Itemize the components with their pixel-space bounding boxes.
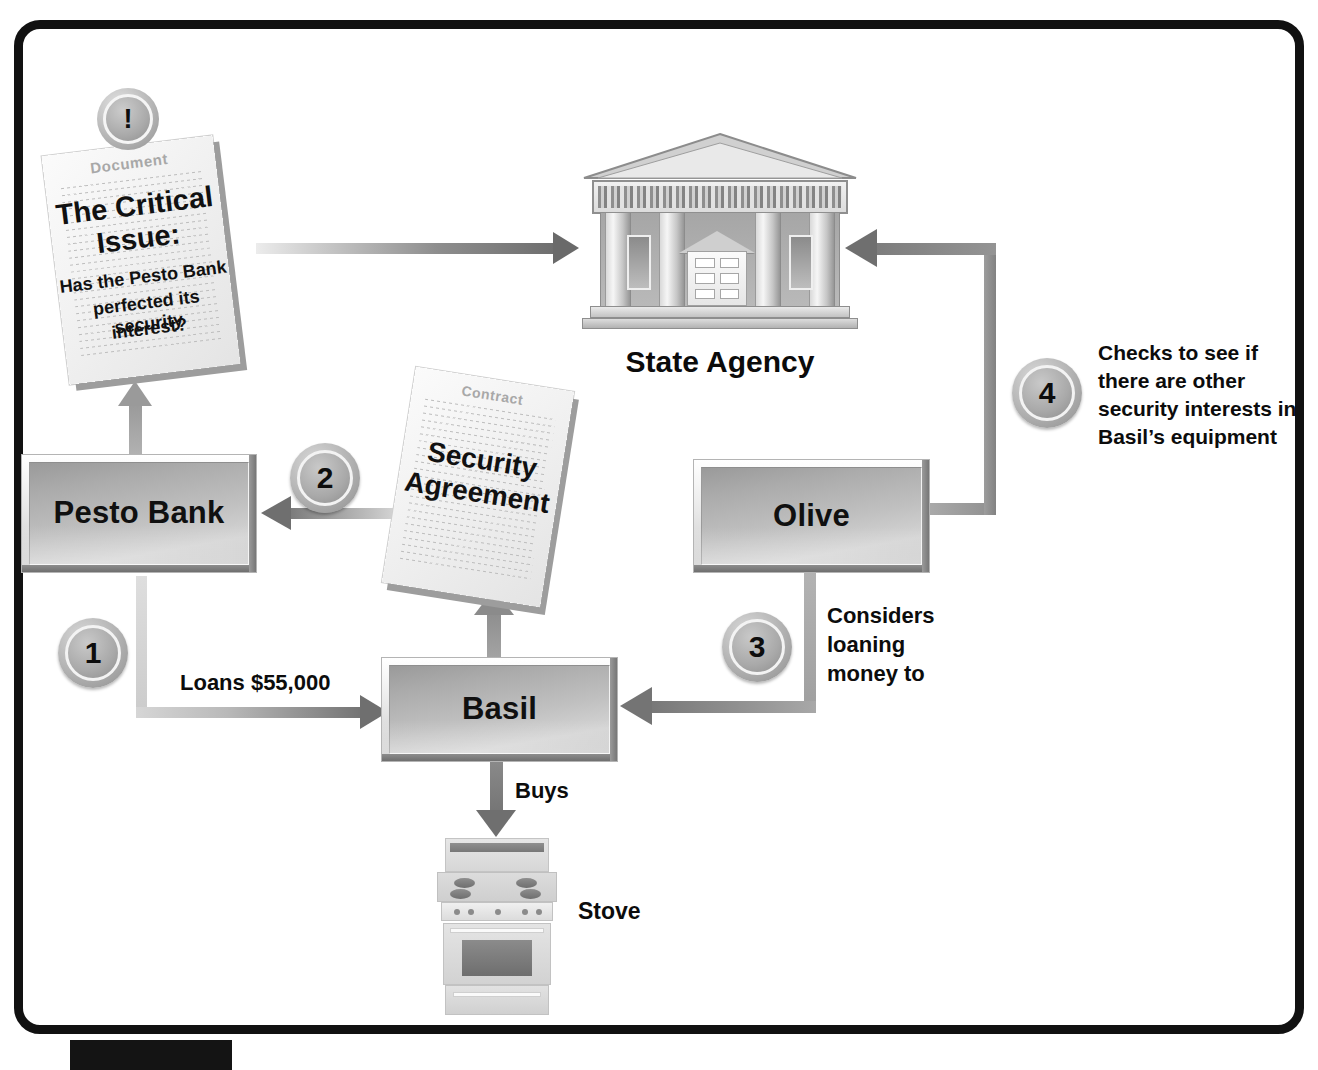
arrow-document-to-agency-shaft: [256, 243, 556, 254]
window-right: [789, 235, 813, 290]
stove-label: Stove: [578, 898, 641, 925]
step4-label-line1: Checks to see if: [1098, 339, 1258, 367]
arrow-basil-to-contract-shaft: [487, 612, 501, 664]
step4-label-line4: Basil’s equipment: [1098, 423, 1277, 451]
step-badge-3[interactable]: 3: [722, 612, 792, 682]
step1-label: Loans $55,000: [180, 668, 330, 697]
step-badge-3-number: 3: [749, 630, 766, 664]
step3-label-line3: money to: [827, 659, 925, 688]
step4-label-line2: there are other: [1098, 367, 1245, 395]
stove-icon: [437, 838, 557, 996]
node-pesto-bank[interactable]: Pesto Bank: [22, 455, 256, 572]
building-body: [600, 213, 840, 306]
step3-label-line1: Considers: [827, 601, 935, 630]
door-pediment-icon: [679, 231, 755, 253]
arrow-step4-vertical: [984, 243, 996, 515]
step-badge-1[interactable]: 1: [58, 618, 128, 688]
arrow-step1-horizontal: [136, 707, 363, 718]
arrow-step3-head: [620, 687, 652, 725]
document-card[interactable]: Document The Critical Issue: Has the Pes…: [42, 135, 241, 384]
arrow-basil-to-stove-shaft: [490, 760, 503, 812]
arrow-contract-to-bank-head: [261, 496, 291, 530]
arrow-step4-horizontal: [876, 243, 996, 255]
step-badge-4[interactable]: 4: [1012, 358, 1082, 428]
step4-label-line3: security interests in: [1098, 395, 1296, 423]
contract-card[interactable]: Contract Security Agreement: [382, 367, 574, 607]
exclamation-icon: !: [97, 88, 159, 150]
window-left: [627, 235, 651, 290]
frieze: [592, 180, 848, 214]
node-basil-label: Basil: [462, 692, 537, 726]
arrow-basil-to-stove-head: [476, 810, 516, 837]
node-olive[interactable]: Olive: [694, 460, 929, 572]
arrow-step3-vertical: [804, 572, 816, 712]
exclamation-mark: !: [97, 88, 159, 150]
step-badge-2[interactable]: 2: [290, 443, 360, 513]
buys-label: Buys: [515, 776, 569, 805]
arrow-step1-vertical: [136, 576, 147, 718]
node-basil[interactable]: Basil: [382, 658, 617, 761]
arrow-bank-to-document-shaft: [129, 404, 142, 460]
diagram-canvas: Document The Critical Issue: Has the Pes…: [0, 0, 1318, 1070]
entrance-door: [687, 251, 747, 306]
step-badge-4-number: 4: [1039, 376, 1056, 410]
node-pesto-bank-label: Pesto Bank: [54, 496, 225, 530]
step-badge-1-number: 1: [85, 636, 102, 670]
arrow-document-to-agency-head: [553, 232, 579, 264]
step3-label-line2: loaning: [827, 630, 905, 659]
arrow-bank-to-document-head: [118, 381, 152, 406]
node-olive-label: Olive: [773, 499, 850, 533]
arrow-step3-horizontal: [652, 701, 816, 713]
pediment-icon: [580, 132, 860, 182]
state-agency-building-icon: [580, 132, 860, 337]
step-badge-2-number: 2: [317, 461, 334, 495]
state-agency-label: State Agency: [555, 345, 885, 379]
